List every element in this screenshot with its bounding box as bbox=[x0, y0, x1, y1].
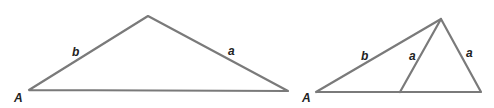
vertex-a-label-left: A bbox=[13, 91, 23, 105]
triangle-right: A b a a bbox=[301, 19, 481, 105]
vertex-a-label-right: A bbox=[301, 91, 311, 105]
side-a-outer-label: a bbox=[466, 46, 473, 60]
side-a-label-left: a bbox=[228, 44, 235, 58]
side-a-inner-label: a bbox=[409, 49, 416, 63]
triangle-left: A b a bbox=[13, 16, 288, 105]
triangle-left-outline bbox=[29, 16, 288, 91]
side-b-label-right: b bbox=[361, 49, 368, 63]
triangle-right-outline bbox=[316, 19, 481, 92]
diagram-canvas: A b a A b a a bbox=[0, 0, 494, 108]
side-b-label-left: b bbox=[72, 45, 79, 59]
